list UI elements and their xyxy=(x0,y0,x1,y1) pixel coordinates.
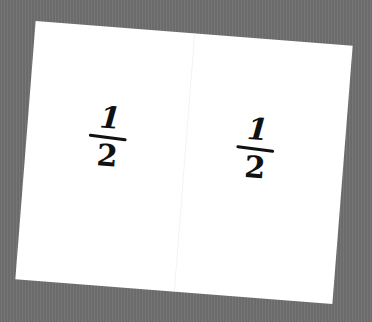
numerator: 1 xyxy=(89,102,131,135)
fraction-right: 1 2 xyxy=(234,113,279,184)
paper-sheet: 1 2 1 2 xyxy=(15,21,352,304)
fold-line xyxy=(174,33,195,291)
fraction-left: 1 2 xyxy=(86,102,131,173)
denominator: 2 xyxy=(86,139,128,172)
denominator: 2 xyxy=(234,151,276,184)
numerator: 1 xyxy=(237,113,279,146)
